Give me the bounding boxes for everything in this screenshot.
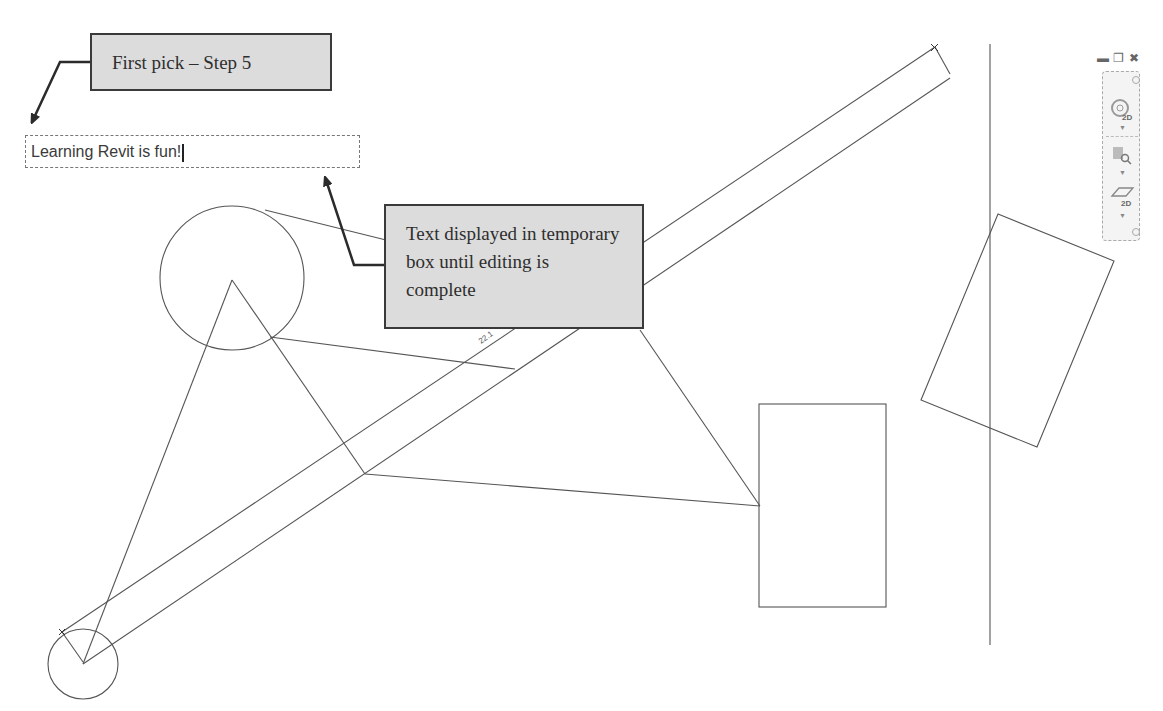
rectangle [759, 404, 886, 607]
window-controls: ▬ ❐ ✖ [1097, 51, 1139, 65]
nav-separator [1106, 136, 1138, 137]
zoom-icon[interactable] [1109, 142, 1135, 168]
close-icon[interactable]: ✖ [1129, 51, 1139, 65]
nav-bar-close-icon[interactable] [1132, 76, 1140, 84]
callout-temporary-box: Text displayed in temporary box until ed… [384, 204, 644, 329]
navigation-bar: 2D ▼ ▼ 2D ▼ [1102, 71, 1140, 241]
zoom-dropdown-icon[interactable]: ▼ [1119, 169, 1126, 176]
wall-end-cap [935, 47, 950, 74]
text-caret [182, 144, 184, 162]
pan-2d-icon[interactable]: 2D [1109, 182, 1135, 208]
text-edit-box[interactable]: Learning Revit is fun! [25, 135, 360, 168]
callout-first-pick-text: First pick – Step 5 [112, 52, 251, 73]
callout-first-pick: First pick – Step 5 [90, 33, 332, 91]
rotated-rectangle [921, 214, 1114, 447]
2d-wheel-dropdown-icon[interactable]: ▼ [1119, 124, 1126, 131]
svg-text:2D: 2D [1121, 199, 1131, 208]
pan-2d-dropdown-icon[interactable]: ▼ [1119, 212, 1126, 219]
drawing-canvas[interactable] [0, 0, 1163, 711]
callout-temporary-box-text: Text displayed in temporary box until ed… [406, 223, 619, 300]
restore-icon[interactable]: ❐ [1113, 51, 1123, 65]
circle-large [160, 206, 304, 350]
text-edit-value: Learning Revit is fun! [31, 143, 181, 160]
2d-wheel-icon[interactable]: 2D [1109, 96, 1135, 122]
svg-text:2D: 2D [1122, 113, 1132, 122]
nav-bar-options-icon[interactable] [1132, 228, 1140, 236]
minimize-icon[interactable]: ▬ [1097, 51, 1107, 65]
wall-start-cap [62, 632, 83, 662]
